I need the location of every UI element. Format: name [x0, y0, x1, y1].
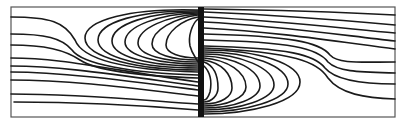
barrier-plate: [198, 7, 204, 117]
streamline-svg: [0, 0, 407, 126]
left-through-streamlines: [11, 17, 198, 110]
upper-left-recirculation-lobes: [85, 10, 198, 70]
lower-right-recirculation-lobes: [204, 50, 300, 114]
streamline-figure: [0, 0, 407, 126]
